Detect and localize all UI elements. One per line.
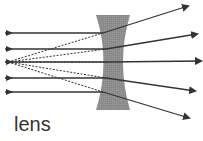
arrow-icon (6, 89, 13, 95)
arrow-icon (6, 30, 13, 36)
lens-label: lens (14, 114, 51, 134)
arrow-icon (6, 59, 13, 65)
incoming-rays (5, 33, 107, 92)
arrow-icon (6, 75, 13, 81)
arrow-icon (6, 46, 13, 52)
